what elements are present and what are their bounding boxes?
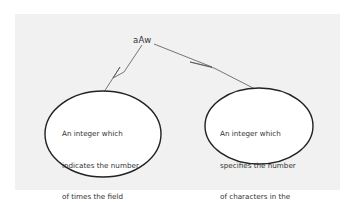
- diagram-graphics: [0, 0, 355, 202]
- left-connector-line: [104, 45, 142, 92]
- left-bubble-line: of times the field: [62, 192, 139, 202]
- format-code-label: aAw: [133, 35, 152, 45]
- right-connector-line: [154, 44, 255, 89]
- left-bubble-line: indicates the number: [62, 161, 139, 172]
- right-bubble-line: An integer which: [220, 129, 296, 140]
- right-bubble-text: An integer which specifies the number of…: [220, 108, 296, 202]
- right-bubble-line: of characters in the: [220, 192, 296, 202]
- left-bubble-text: An integer which indicates the number of…: [62, 108, 139, 202]
- left-bubble-line: An integer which: [62, 129, 139, 140]
- right-bubble-line: specifies the number: [220, 161, 296, 172]
